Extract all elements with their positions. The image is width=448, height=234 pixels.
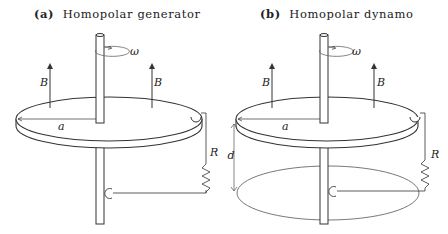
resistor-label: R [430, 148, 439, 161]
field-label-right: B [153, 76, 162, 89]
panel-b-diagram [231, 34, 429, 225]
brush-shaft [329, 187, 336, 197]
rotation-arrow-icon [328, 47, 335, 48]
separation-label: d [227, 149, 234, 162]
resistor-icon [421, 160, 429, 188]
rotation-arrow-icon [104, 47, 111, 48]
resistor-icon [202, 164, 210, 193]
radius-label: a [58, 120, 65, 133]
shaft-lower [96, 146, 104, 224]
resistor-label: R [209, 146, 218, 159]
field-label-left: B [39, 76, 48, 89]
brush-shaft [105, 189, 112, 199]
omega-label: ω [130, 45, 139, 58]
panel-a-diagram [16, 34, 210, 225]
field-label-right: B [376, 76, 385, 89]
wire-right [420, 113, 425, 160]
omega-label: ω [352, 45, 361, 58]
shaft-lower [320, 146, 328, 224]
shaft-upper [96, 35, 104, 123]
shaft-upper [320, 35, 328, 123]
wire-bottom [113, 190, 206, 193]
shaft-top [320, 34, 328, 37]
diagram-canvas: ω B B a R ω [0, 0, 448, 234]
shaft-top [96, 34, 104, 37]
radius-label: a [282, 120, 289, 133]
field-label-left: B [261, 76, 270, 89]
